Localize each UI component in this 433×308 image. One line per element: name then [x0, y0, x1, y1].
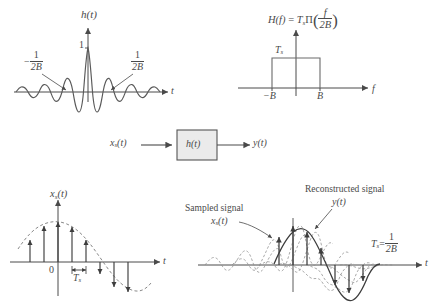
left-zero-den: 2B: [30, 62, 43, 73]
sampled-y-axis-label: xs(t): [50, 189, 67, 201]
figure-root: h(t) t 1 −12B 12B H(f) = TsΠ(f2B) Ts −B …: [0, 0, 433, 308]
left-zero-leader: [42, 74, 66, 90]
impulse-peak-label: 1: [79, 40, 84, 50]
transfer-function-title: H(f) = TsΠ(f2B): [268, 7, 338, 30]
transfer-height-label: Ts: [275, 45, 283, 56]
reconstructed-annotation-line2: y(t): [332, 197, 346, 207]
sinc-basis: [205, 249, 280, 273]
transfer-function-plot: [238, 30, 368, 96]
xs-tail: (t): [218, 215, 227, 226]
impulse-y-axis-label: h(t): [81, 9, 97, 20]
left-zero-num: 1: [30, 50, 43, 62]
sampled-signal-annotation-line2: xs(t): [211, 216, 228, 227]
figure-canvas: [0, 0, 433, 308]
impulse-left-zero-label: −12B: [24, 50, 43, 72]
arg-den: 2B: [318, 19, 332, 30]
reconstructed-annotation-line1: Reconstructed signal: [305, 185, 384, 195]
sampling-period-label: Ts: [73, 273, 81, 284]
sampled-signal-annotation-line1: Sampled signal: [185, 204, 243, 214]
sampled-signal-leader: [239, 222, 272, 238]
reconstructed-signal-leader: [315, 209, 332, 229]
block-output-label: y(t): [253, 138, 267, 148]
arg-num: f: [318, 7, 332, 19]
transfer-x-axis-label: f: [372, 84, 375, 94]
impulse-right-zero-label: 12B: [131, 50, 144, 72]
transfer-tick-left-label: −B: [263, 91, 276, 101]
Ts-height-subscript: s: [281, 48, 284, 55]
equals-sign: =: [288, 14, 294, 25]
sampled-x-axis-label: t: [163, 256, 166, 266]
sinc-basis: [275, 232, 349, 272]
reconstruction-x-axis-label: t: [425, 258, 428, 268]
Ts-subscript: s: [79, 276, 82, 283]
Hf-symbol: H(f): [268, 14, 286, 25]
pi-symbol: Π: [305, 14, 313, 25]
sampled-origin-label: 0: [49, 265, 54, 275]
reconstruction-plot: [198, 209, 422, 301]
transfer-tick-right-label: B: [317, 91, 323, 101]
relation-den: 2B: [385, 244, 398, 255]
right-zero-leader: [111, 74, 133, 90]
right-zero-num: 1: [131, 50, 144, 62]
sampled-signal-plot: [10, 200, 160, 296]
xs-tail: (t): [117, 137, 126, 148]
xs-tail: (t): [57, 188, 67, 199]
reconstruction-period-relation: Ts=12B: [371, 232, 398, 254]
right-zero-den: 2B: [131, 62, 144, 73]
sine-envelope: [18, 222, 151, 291]
impulse-x-axis-label: t: [171, 86, 174, 96]
block-label: h(t): [186, 139, 200, 149]
block-input-label: xs(t): [110, 138, 127, 149]
relation-num: 1: [385, 232, 398, 244]
